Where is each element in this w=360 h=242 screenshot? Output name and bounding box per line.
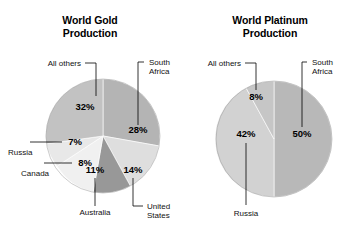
label-canada: Canada (21, 169, 50, 178)
value-all-others: 32% (75, 101, 95, 112)
value-united-states: 14% (123, 164, 143, 175)
pie-slice-south-africa (103, 79, 160, 146)
value-all-others: 8% (249, 91, 263, 102)
label-south-africa-line1: South (149, 58, 170, 67)
value-russia: 42% (236, 128, 256, 139)
chart-panel-platinum: World PlatinumProduction All others Sout… (180, 0, 360, 242)
pie-chart-gold: All others South Africa Russia Canada Au… (0, 0, 180, 242)
value-south-africa: 28% (128, 124, 148, 135)
label-all-others: All others (208, 59, 241, 68)
value-south-africa: 50% (292, 128, 312, 139)
label-russia: Russia (8, 148, 33, 157)
label-united-states-line1: United (147, 202, 170, 211)
chart-panel-gold: World GoldProduction All (0, 0, 180, 242)
value-australia: 11% (86, 164, 105, 175)
label-united-states-line2: States (147, 211, 170, 220)
label-russia: Russia (234, 209, 259, 218)
label-south-africa-line2: Africa (312, 67, 333, 76)
label-south-africa-line2: Africa (149, 67, 170, 76)
label-south-africa-line1: South (312, 58, 333, 67)
figure-two-pie-charts: World GoldProduction All (0, 0, 360, 242)
pie-chart-platinum: All others South Africa Russia 8% 50% 42… (180, 0, 360, 242)
label-australia: Australia (79, 208, 111, 217)
label-all-others: All others (48, 59, 81, 68)
value-russia: 7% (68, 136, 82, 147)
pie-slice-south-africa (274, 81, 332, 197)
